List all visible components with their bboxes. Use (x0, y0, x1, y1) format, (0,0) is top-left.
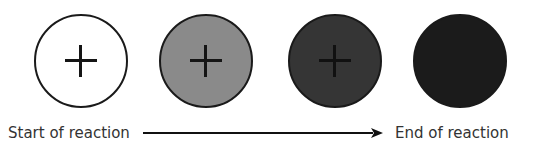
circle-stage-4 (413, 14, 507, 108)
plus-icon (65, 45, 97, 77)
circle-stage-2 (159, 14, 253, 108)
plus-icon (190, 45, 222, 77)
plus-icon (319, 45, 351, 77)
end-label: End of reaction (395, 124, 509, 142)
arrow-right-icon (143, 126, 383, 140)
reaction-diagram: Start of reaction End of reaction (0, 0, 546, 148)
circle-stage-1 (34, 14, 128, 108)
circle-stage-3 (288, 14, 382, 108)
start-label: Start of reaction (8, 124, 130, 142)
